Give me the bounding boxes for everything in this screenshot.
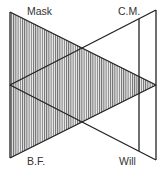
label-mask: Mask	[27, 5, 53, 17]
label-cm: C.M.	[118, 5, 140, 17]
label-bf: B.F.	[27, 155, 45, 167]
shaded-triangle	[10, 12, 156, 158]
label-will: Will	[119, 155, 136, 167]
triangle-overlap-diagram: Mask C.M. B.F. Will	[0, 0, 166, 170]
